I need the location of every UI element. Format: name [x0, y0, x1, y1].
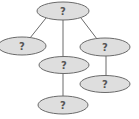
node-label: ?	[60, 100, 66, 111]
node-bottom: ?	[38, 96, 88, 114]
nodes: ??????	[0, 2, 130, 114]
edge-root-to-left	[30, 18, 46, 38]
node-left: ?	[0, 37, 46, 55]
node-label: ?	[102, 79, 108, 90]
node-label: ?	[102, 42, 108, 53]
node-lower-right: ?	[80, 76, 130, 93]
node-right: ?	[80, 38, 130, 56]
node-middle: ?	[39, 57, 89, 74]
node-label: ?	[61, 60, 67, 71]
node-label: ?	[19, 41, 25, 52]
node-root: ?	[37, 2, 89, 20]
node-label: ?	[60, 6, 66, 17]
tree-diagram: ??????	[0, 0, 139, 119]
edge-root-to-right	[81, 18, 97, 39]
